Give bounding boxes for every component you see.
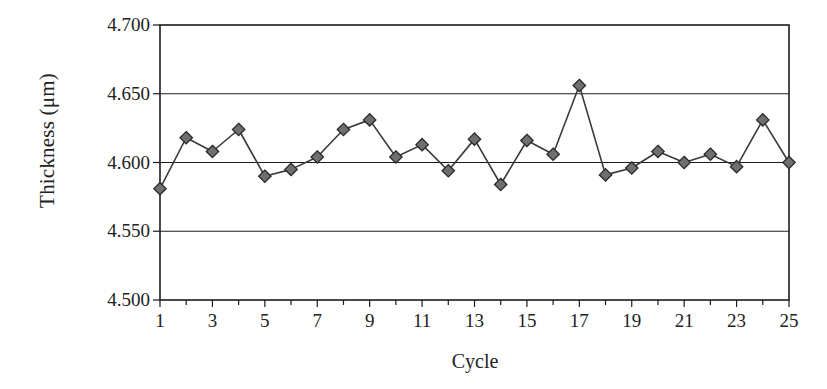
x-axis-tick-label: 9 [350, 310, 390, 332]
data-point [259, 170, 271, 182]
data-point [521, 134, 533, 146]
x-axis-tick-label: 7 [297, 310, 337, 332]
x-axis-tick-label: 5 [245, 310, 285, 332]
data-point [757, 114, 769, 126]
y-axis-tick-label: 4.500 [78, 289, 150, 311]
thickness-line-chart: Thickness (μm) 4.7004.6504.6004.5504.500… [0, 0, 827, 389]
data-point [573, 79, 585, 91]
data-point [285, 163, 297, 175]
x-axis-title: Cycle [160, 350, 790, 373]
data-point [154, 182, 166, 194]
data-point [180, 132, 192, 144]
x-axis-tick-label: 3 [192, 310, 232, 332]
data-markers [154, 79, 795, 195]
x-axis-tick-label: 21 [664, 310, 704, 332]
data-point [599, 169, 611, 181]
data-point [547, 148, 559, 160]
x-axis-tick-label: 1 [140, 310, 180, 332]
data-point [495, 178, 507, 190]
data-point [678, 156, 690, 168]
x-axis-tick-label: 11 [402, 310, 442, 332]
data-point [783, 156, 795, 168]
x-axis-tick-label: 17 [559, 310, 599, 332]
gridlines [160, 94, 789, 232]
x-axis-tick-label: 13 [455, 310, 495, 332]
data-point [704, 148, 716, 160]
y-axis-tick-label: 4.700 [78, 14, 150, 36]
x-axis-tick-label: 19 [612, 310, 652, 332]
y-axis-tick-label: 4.550 [78, 220, 150, 242]
data-point [390, 151, 402, 163]
x-axis-tick-label: 15 [507, 310, 547, 332]
x-axis-tick-label: 23 [717, 310, 757, 332]
data-point [626, 162, 638, 174]
data-point [363, 114, 375, 126]
x-axis-tick-label: 25 [769, 310, 809, 332]
tick-marks [153, 25, 789, 307]
y-axis-tick-label: 4.650 [78, 83, 150, 105]
data-point [652, 145, 664, 157]
y-axis-tick-label: 4.600 [78, 152, 150, 174]
